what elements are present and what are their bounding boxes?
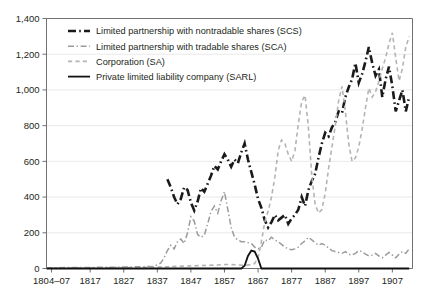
x-tick-label: 1867 <box>247 275 268 286</box>
legend-label-sa: Corporation (SA) <box>96 57 165 67</box>
legend-label-sarl: Private limited liability company (SARL) <box>96 72 256 82</box>
x-tick-label: 1857 <box>214 275 235 286</box>
y-tick-label: 1,400 <box>16 13 40 24</box>
x-tick-label: 1804–07 <box>33 275 70 286</box>
x-tick-label: 1837 <box>147 275 168 286</box>
y-tick-label: 800 <box>24 120 40 131</box>
y-tick-label: 1,200 <box>16 49 40 60</box>
legend-label-sca: Limited partnership with tradable shares… <box>96 42 286 52</box>
x-tick-label: 1897 <box>348 275 369 286</box>
x-tick-label: 1907 <box>382 275 403 286</box>
line-chart: 02004006008001,0001,2001,400 1804–071817… <box>0 0 422 300</box>
y-tick-label: 0 <box>34 263 39 274</box>
y-tick-label: 1,000 <box>16 84 40 95</box>
legend-label-scs: Limited partnership with nontradable sha… <box>96 26 302 36</box>
y-tick-label: 200 <box>24 227 40 238</box>
chart-container: 02004006008001,0001,2001,400 1804–071817… <box>0 0 422 300</box>
y-tick-label: 600 <box>24 156 40 167</box>
x-tick-label: 1877 <box>281 275 302 286</box>
y-tick-label: 400 <box>24 191 40 202</box>
x-tick-label: 1887 <box>315 275 336 286</box>
x-tick-label: 1817 <box>80 275 101 286</box>
x-tick-label: 1847 <box>180 275 201 286</box>
x-tick-label: 1827 <box>113 275 134 286</box>
